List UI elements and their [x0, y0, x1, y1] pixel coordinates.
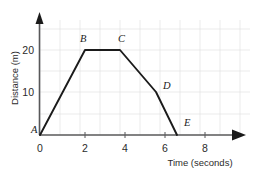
distance-time-line: [40, 50, 177, 135]
y-tick-label-10: 10: [22, 86, 34, 98]
y-axis-title: Distance (m): [9, 51, 20, 105]
x-tick-label-2: 2: [82, 142, 88, 154]
point-label-a: A: [30, 124, 38, 135]
y-tick-label-20: 20: [22, 44, 34, 56]
point-label-c: C: [118, 33, 126, 44]
point-label-b: B: [80, 33, 87, 44]
x-tick-label-4: 4: [122, 142, 128, 154]
x-axis-title: Time (seconds): [167, 157, 232, 168]
point-label-e: E: [183, 117, 191, 128]
point-label-d: D: [162, 80, 171, 91]
axes: [36, 12, 247, 141]
x-tick-label-0: 0: [37, 142, 43, 154]
y-axis-arrowhead: [36, 12, 44, 24]
x-tick-label-8: 8: [202, 142, 208, 154]
distance-time-chart: 20 10 0 2 4 6 8 Distance (m) Time (secon…: [0, 0, 262, 174]
data-series-journey: [40, 50, 177, 135]
x-tick-label-6: 6: [162, 142, 168, 154]
chart-canvas: 20 10 0 2 4 6 8 Distance (m) Time (secon…: [0, 0, 262, 174]
x-axis-arrowhead: [232, 130, 246, 141]
